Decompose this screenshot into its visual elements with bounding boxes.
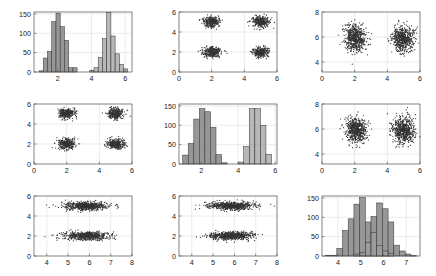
panel-1-2-point [258,46,259,47]
panel-1-3-point [407,35,408,36]
panel-1-3-point [404,34,405,35]
panel-2-3-point [410,118,411,119]
panel-3-1-point [91,237,92,238]
panel-2-3-point [405,140,406,141]
panel-3-1-point [109,235,110,236]
panel-2-3-point [395,147,396,148]
panel-3-2-point [219,237,220,238]
panel-2-1-point [59,146,60,147]
panel-1-3-point [390,43,391,44]
panel-3-1-point [91,210,92,211]
panel-1-3-point [402,29,403,30]
panel-1-2-point [263,48,264,49]
panel-1-2-point [259,20,260,21]
panel-2-3-point [397,120,398,121]
panel-3-1-ytick-label: 6 [27,192,31,201]
panel-2-3-point [393,129,394,130]
panel-2-3-point [413,142,414,143]
panel-1-3-point [401,48,402,49]
panel-3-1-point [66,209,67,210]
panel-1-3-point [347,24,348,25]
panel-3-2-point [238,208,239,209]
panel-3-2-point [230,206,231,207]
panel-3-2-point [241,238,242,239]
panel-2-3-point [357,111,358,112]
panel-1-3-point [359,32,360,33]
panel-3-1-point [61,232,62,233]
panel-3-1-point [97,209,98,210]
panel-1-3-point [370,44,371,45]
panel-2-3-point [411,128,412,129]
panel-1-2-point [204,23,205,24]
panel-3-1-point [83,207,84,208]
panel-3-1-point [97,204,98,205]
panel-2-3-point [351,117,352,118]
panel-3-1-point [64,238,65,239]
panel-1-2-point [217,54,218,55]
panel-2-3-point [352,126,353,127]
panel-2-1-point [72,138,73,139]
panel-3-2-point [207,205,208,206]
panel-2-3-point [411,131,412,132]
panel-2-1-point [117,113,118,114]
panel-3-1-point [100,239,101,240]
panel-1-2-point [265,27,266,28]
panel-2-3-point [392,141,393,142]
panel-1-2-point [265,55,266,56]
panel-3-2-point [215,235,216,236]
panel-3-2-point [242,202,243,203]
panel-3-1-point [117,208,118,209]
panel-3-1-point [75,237,76,238]
panel-1-2-point [257,47,258,48]
panel-1-3-point [344,46,345,47]
panel-3-2-point [206,237,207,238]
panel-3-1-point [63,236,64,237]
panel-2-3-point [402,121,403,122]
panel-3-1-point [86,202,87,203]
panel-3-2-point [212,202,213,203]
panel-2-3-point [356,147,357,148]
panel-3-2-point [250,237,251,238]
panel-2-1-point [126,145,127,146]
panel-2-1-point [75,115,76,116]
panel-1-2-point [256,24,257,25]
panel-3-3-xtick-label: 4 [336,258,340,267]
panel-2-1-point [111,136,112,137]
panel-2-1-point [119,143,120,144]
panel-2-3-ytick-label: 6 [315,125,319,134]
panel-3-1-point [73,207,74,208]
panel-3-2-point [219,204,220,205]
panel-3-2-point [241,235,242,236]
panel-3-1-point [66,232,67,233]
panel-1-2-point [210,53,211,54]
panel-2-1-point [118,146,119,147]
panel-1-3-point [413,44,414,45]
panel-2-3-point [402,138,403,139]
panel-1-3-point [400,53,401,54]
panel-1-2-point [215,47,216,48]
panel-1-3-point [401,54,402,55]
panel-2-3-point [406,128,407,129]
panel-2-3-point [409,119,410,120]
panel-1-3-point [361,52,362,53]
panel-2-3-point [409,137,410,138]
panel-2-1-point [79,143,80,144]
panel-3-2-point [214,204,215,205]
panel-2-3-point [354,138,355,139]
panel-2-3-point [392,127,393,128]
panel-1-2-point [208,17,209,18]
panel-3-1-point [107,237,108,238]
panel-3-1-point [72,209,73,210]
panel-1-2-point [218,16,219,17]
panel-1-2-point [209,50,210,51]
panel-3-2-point [250,202,251,203]
panel-3-1-point [87,235,88,236]
panel-2-3-point [370,123,371,124]
panel-2-1-point [60,139,61,140]
panel-1-3-ytick-label: 8 [315,8,319,17]
panel-2-3-ytick-label: 4 [315,150,319,159]
panel-3-1-point [75,230,76,231]
panel-3-1-point [83,202,84,203]
panel-3-1-point [51,235,52,236]
panel-1-3-point [349,25,350,26]
